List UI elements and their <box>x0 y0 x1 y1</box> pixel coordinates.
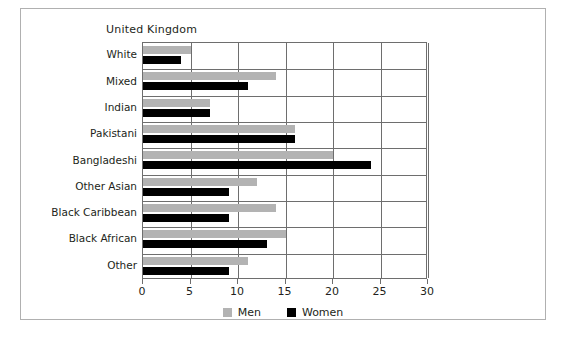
bar-men-indian <box>143 99 210 107</box>
bar-men-white <box>143 46 191 54</box>
legend-item-men: Men <box>223 306 261 319</box>
women-swatch <box>287 308 296 317</box>
axis-tick-label-30: 30 <box>420 285 434 298</box>
chart-legend: MenWomen <box>21 306 545 319</box>
axis-tick-15 <box>285 279 286 284</box>
bar-group <box>143 175 426 201</box>
bar-women-mixed <box>143 82 248 90</box>
bar-men-other-asian <box>143 178 257 186</box>
axis-tick-label-25: 25 <box>373 285 387 298</box>
legend-item-women: Women <box>287 306 343 319</box>
bar-men-bangladeshi <box>143 151 333 159</box>
bar-women-indian <box>143 109 210 117</box>
bar-group <box>143 43 426 69</box>
axis-tick-5 <box>190 279 191 284</box>
bar-women-black-caribbean <box>143 214 229 222</box>
axis-tick-label-15: 15 <box>278 285 292 298</box>
axis-tick-label-10: 10 <box>230 285 244 298</box>
bar-men-black-caribbean <box>143 204 276 212</box>
bar-men-pakistani <box>143 125 295 133</box>
bar-men-other <box>143 257 248 265</box>
plot-area <box>142 42 427 279</box>
bar-group <box>143 122 426 148</box>
chart-title: United Kingdom <box>106 23 197 36</box>
category-label-mixed: Mixed <box>106 75 137 87</box>
category-label-black-african: Black African <box>69 232 137 244</box>
bar-men-black-african <box>143 230 286 238</box>
bar-women-pakistani <box>143 135 295 143</box>
category-label-white: White <box>106 48 137 60</box>
bar-group <box>143 254 426 280</box>
axis-tick-25 <box>380 279 381 284</box>
chart-figure: United Kingdom WhiteMixedIndianPakistani… <box>20 8 546 320</box>
category-label-other: Other <box>107 259 137 271</box>
category-label-pakistani: Pakistani <box>90 127 137 139</box>
gridline-30 <box>428 43 429 278</box>
bar-men-mixed <box>143 72 276 80</box>
category-label-black-caribbean: Black Caribbean <box>51 206 137 218</box>
bar-group <box>143 227 426 253</box>
bar-women-other <box>143 267 229 275</box>
legend-label: Men <box>238 306 261 319</box>
legend-label: Women <box>302 306 343 319</box>
category-label-indian: Indian <box>105 101 137 113</box>
category-label-bangladeshi: Bangladeshi <box>73 154 137 166</box>
axis-tick-0 <box>142 279 143 284</box>
bar-group <box>143 201 426 227</box>
axis-tick-label-20: 20 <box>325 285 339 298</box>
axis-tick-label-5: 5 <box>186 285 193 298</box>
bar-group <box>143 69 426 95</box>
axis-tick-label-0: 0 <box>139 285 146 298</box>
value-axis: 051015202530 <box>142 279 429 301</box>
category-axis-labels: WhiteMixedIndianPakistaniBangladeshiOthe… <box>21 42 137 279</box>
bar-women-other-asian <box>143 188 229 196</box>
bar-group <box>143 148 426 174</box>
axis-tick-30 <box>427 279 428 284</box>
bar-group <box>143 96 426 122</box>
bar-women-white <box>143 56 181 64</box>
bar-women-bangladeshi <box>143 161 371 169</box>
men-swatch <box>223 308 232 317</box>
bar-women-black-african <box>143 240 267 248</box>
axis-tick-10 <box>237 279 238 284</box>
category-label-other-asian: Other Asian <box>75 180 137 192</box>
axis-tick-20 <box>332 279 333 284</box>
